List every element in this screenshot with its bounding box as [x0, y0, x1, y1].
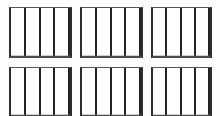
panel-4-cell-4 [55, 68, 70, 115]
panel-2 [80, 7, 143, 58]
panel-4-cell-2 [26, 68, 41, 115]
panel-3 [151, 7, 212, 58]
panel-1-cell-3 [41, 8, 56, 56]
panel-5-cell-4 [126, 68, 141, 115]
panel-6-cell-1 [153, 68, 167, 115]
panel-4-cell-3 [41, 68, 56, 115]
panel-3-cell-1 [153, 8, 167, 56]
panel-2-cell-3 [112, 8, 127, 56]
panel-2-cell-2 [97, 8, 112, 56]
panel-5-cell-1 [82, 68, 97, 115]
panel-6-cell-3 [182, 68, 196, 115]
figure-canvas [0, 0, 220, 116]
panel-2-cell-1 [82, 8, 97, 56]
panel-3-cell-4 [196, 8, 210, 56]
panel-5-cell-2 [97, 68, 112, 115]
panel-4-cell-1 [11, 68, 26, 115]
panel-3-cell-2 [167, 8, 181, 56]
panel-2-cell-4 [126, 8, 141, 56]
panel-3-cell-3 [182, 8, 196, 56]
panel-5 [80, 67, 143, 116]
panel-5-cell-3 [112, 68, 127, 115]
panel-6 [151, 67, 212, 116]
panel-1-cell-2 [26, 8, 41, 56]
panel-1 [9, 7, 72, 58]
panel-grid [9, 7, 213, 111]
panel-6-cell-4 [196, 68, 210, 115]
panel-6-cell-2 [167, 68, 181, 115]
panel-4 [9, 67, 72, 116]
panel-1-cell-4 [55, 8, 70, 56]
panel-1-cell-1 [11, 8, 26, 56]
